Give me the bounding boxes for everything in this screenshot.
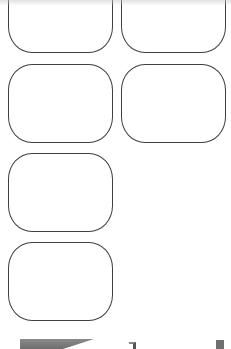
tile-5[interactable] — [8, 153, 113, 232]
tile-3[interactable] — [8, 64, 113, 143]
tile-2[interactable] — [121, 0, 226, 53]
square-icon[interactable] — [216, 340, 224, 349]
top-scroll-fade — [0, 0, 231, 6]
banner-shape-icon[interactable] — [20, 339, 94, 349]
tile-6[interactable] — [8, 242, 113, 321]
tile-4[interactable] — [121, 64, 226, 143]
corner-bracket-icon[interactable] — [129, 342, 136, 349]
tile-1[interactable] — [8, 0, 113, 53]
bottom-toolbar — [0, 336, 231, 349]
tile-grid[interactable] — [0, 0, 231, 349]
